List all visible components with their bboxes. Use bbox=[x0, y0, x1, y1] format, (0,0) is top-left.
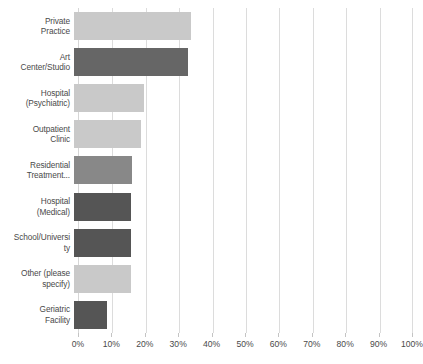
bar[interactable] bbox=[74, 156, 132, 184]
bar-rows: PrivatePracticeArtCenter/StudioHospital(… bbox=[0, 0, 422, 333]
x-tick-mark bbox=[78, 333, 79, 337]
bar-row: School/University bbox=[0, 225, 422, 261]
x-tick-mark bbox=[111, 333, 112, 337]
x-tick-mark bbox=[245, 333, 246, 337]
bar-row: Hospital(Psychiatric) bbox=[0, 80, 422, 116]
x-tick-mark bbox=[345, 333, 346, 337]
bar[interactable] bbox=[74, 229, 131, 257]
x-tick-mark bbox=[212, 333, 213, 337]
bar-track bbox=[74, 261, 422, 297]
x-tick-mark bbox=[178, 333, 179, 337]
bar-category-label: PrivatePractice bbox=[0, 16, 74, 37]
bar-row: ArtCenter/Studio bbox=[0, 44, 422, 80]
bar-track bbox=[74, 297, 422, 333]
x-tick-label: 70% bbox=[303, 339, 320, 349]
bar-row: Other (pleasespecify) bbox=[0, 261, 422, 297]
bar-track bbox=[74, 8, 422, 44]
bar-track bbox=[74, 80, 422, 116]
x-tick-mark bbox=[145, 333, 146, 337]
bar-track bbox=[74, 225, 422, 261]
x-axis: 0%10%20%30%40%50%60%70%80%90%100% bbox=[78, 333, 412, 361]
x-tick-label: 0% bbox=[72, 339, 84, 349]
bar-row: GeriatricFacility bbox=[0, 297, 422, 333]
bar-row: PrivatePractice bbox=[0, 8, 422, 44]
bar[interactable] bbox=[74, 84, 144, 112]
x-tick-mark bbox=[379, 333, 380, 337]
bar[interactable] bbox=[74, 265, 131, 293]
bar[interactable] bbox=[74, 193, 131, 221]
bar-category-label: Other (pleasespecify) bbox=[0, 268, 74, 289]
bar[interactable] bbox=[74, 48, 188, 76]
x-tick-label: 30% bbox=[170, 339, 187, 349]
x-tick-label: 90% bbox=[370, 339, 387, 349]
x-tick-mark bbox=[278, 333, 279, 337]
bar-category-label: OutpatientClinic bbox=[0, 124, 74, 145]
x-tick-label: 100% bbox=[401, 339, 423, 349]
bar-track bbox=[74, 152, 422, 188]
bar-track bbox=[74, 44, 422, 80]
bar[interactable] bbox=[74, 120, 141, 148]
bar-category-label: Hospital(Psychiatric) bbox=[0, 88, 74, 109]
bar-category-label: ResidentialTreatment... bbox=[0, 160, 74, 181]
bar-track bbox=[74, 188, 422, 224]
bar-track bbox=[74, 116, 422, 152]
x-tick-label: 60% bbox=[270, 339, 287, 349]
x-tick-label: 20% bbox=[136, 339, 153, 349]
x-tick-mark bbox=[412, 333, 413, 337]
bar-category-label: GeriatricFacility bbox=[0, 304, 74, 325]
bar-row: ResidentialTreatment... bbox=[0, 152, 422, 188]
bar-row: OutpatientClinic bbox=[0, 116, 422, 152]
x-tick-label: 50% bbox=[236, 339, 253, 349]
x-tick-label: 10% bbox=[103, 339, 120, 349]
bar-category-label: Hospital(Medical) bbox=[0, 196, 74, 217]
x-tick-mark bbox=[312, 333, 313, 337]
x-tick-label: 80% bbox=[337, 339, 354, 349]
x-tick-label: 40% bbox=[203, 339, 220, 349]
bar[interactable] bbox=[74, 301, 107, 329]
bar-category-label: School/University bbox=[0, 232, 74, 253]
bar-category-label: ArtCenter/Studio bbox=[0, 52, 74, 73]
bar[interactable] bbox=[74, 12, 191, 40]
bar-row: Hospital(Medical) bbox=[0, 188, 422, 224]
